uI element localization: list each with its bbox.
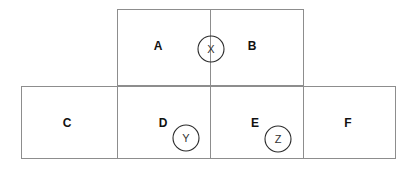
- cell-label-a: A: [154, 39, 163, 53]
- marker-z-group: Z: [265, 126, 291, 152]
- marker-z-label: Z: [275, 133, 282, 145]
- diagram-svg: A B C D E F X Y Z: [0, 0, 416, 169]
- figure-canvas: A B C D E F X Y Z: [0, 0, 416, 169]
- marker-y-label: Y: [182, 132, 190, 144]
- cell-label-b: B: [248, 39, 257, 53]
- bottom-rectangle: [22, 87, 396, 159]
- cell-label-c: C: [63, 116, 72, 130]
- cell-label-e: E: [251, 116, 259, 130]
- cell-label-d: D: [159, 116, 168, 130]
- cell-label-f: F: [344, 116, 351, 130]
- marker-y-group: Y: [173, 125, 199, 151]
- marker-x-label: X: [207, 43, 215, 55]
